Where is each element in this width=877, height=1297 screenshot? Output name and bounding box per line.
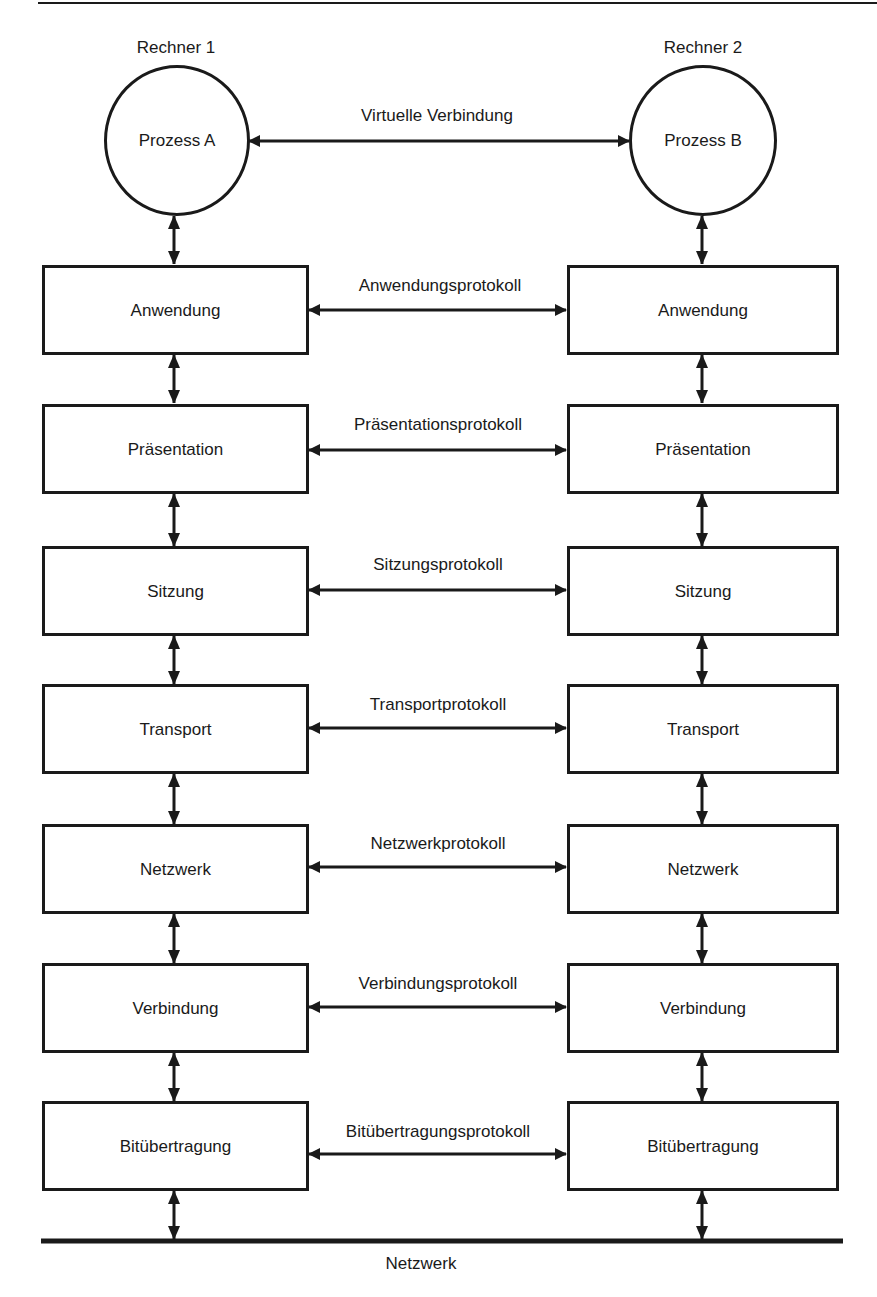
right-layer-datalink: Verbindung: [567, 963, 839, 1053]
layer-name: Verbindung: [132, 1000, 218, 1017]
left-layer-application: Anwendung: [42, 265, 309, 355]
protocol-label-presentation: Präsentationsprotokoll: [354, 416, 522, 433]
layer-name: Transport: [139, 721, 211, 738]
layer-name: Sitzung: [147, 583, 204, 600]
right-layer-session: Sitzung: [567, 546, 839, 636]
left-layer-transport: Transport: [42, 684, 309, 774]
process-b-label: Prozess B: [664, 132, 741, 149]
protocol-label-datalink: Verbindungsprotokoll: [359, 975, 518, 992]
process-b-circle: Prozess B: [629, 65, 777, 216]
left-layer-datalink: Verbindung: [42, 963, 309, 1053]
virtual-connection-label: Virtuelle Verbindung: [361, 107, 513, 124]
layer-name: Bitübertragung: [647, 1138, 759, 1155]
osi-model-diagram: Rechner 1 Rechner 2 Prozess A Prozess B …: [0, 0, 877, 1297]
layer-name: Anwendung: [658, 302, 748, 319]
protocol-label-transport: Transportprotokoll: [370, 696, 506, 713]
layer-name: Präsentation: [128, 441, 223, 458]
right-layer-presentation: Präsentation: [567, 404, 839, 494]
layer-name: Bitübertragung: [120, 1138, 232, 1155]
computer-2-label: Rechner 2: [664, 39, 742, 56]
protocol-label-network: Netzwerkprotokoll: [370, 835, 505, 852]
layer-name: Anwendung: [131, 302, 221, 319]
layer-name: Verbindung: [660, 1000, 746, 1017]
network-label: Netzwerk: [386, 1255, 457, 1272]
left-layer-presentation: Präsentation: [42, 404, 309, 494]
right-layer-transport: Transport: [567, 684, 839, 774]
right-layer-application: Anwendung: [567, 265, 839, 355]
left-layer-physical: Bitübertragung: [42, 1101, 309, 1191]
protocol-label-physical: Bitübertragungsprotokoll: [346, 1123, 530, 1140]
layer-name: Netzwerk: [140, 861, 211, 878]
protocol-label-application: Anwendungsprotokoll: [359, 277, 522, 294]
protocol-label-session: Sitzungsprotokoll: [373, 556, 502, 573]
layer-name: Netzwerk: [668, 861, 739, 878]
computer-1-label: Rechner 1: [137, 39, 215, 56]
layer-name: Sitzung: [675, 583, 732, 600]
left-layer-network: Netzwerk: [42, 824, 309, 914]
protocol-arrows: [309, 310, 566, 1154]
process-a-label: Prozess A: [139, 132, 216, 149]
right-layer-network: Netzwerk: [567, 824, 839, 914]
right-layer-physical: Bitübertragung: [567, 1101, 839, 1191]
process-a-circle: Prozess A: [104, 65, 250, 216]
left-layer-session: Sitzung: [42, 546, 309, 636]
layer-name: Transport: [667, 721, 739, 738]
layer-name: Präsentation: [655, 441, 750, 458]
